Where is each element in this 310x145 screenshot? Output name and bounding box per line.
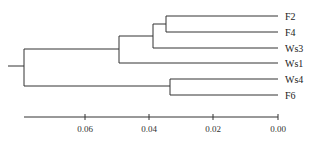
- leaf-label-ws3: Ws3: [285, 43, 303, 54]
- tick-label-0.04: 0.04: [141, 124, 157, 134]
- dendrogram: F2 F4 Ws3 Ws1 Ws4 F6 0.06 0.04 0.02 0.00: [0, 0, 310, 145]
- leaf-label-ws1: Ws1: [285, 58, 303, 69]
- leaf-label-f2: F2: [285, 11, 296, 22]
- leaf-label-f4: F4: [285, 27, 296, 38]
- tick-label-0.02: 0.02: [205, 124, 221, 134]
- tick-label-0.06: 0.06: [77, 124, 93, 134]
- tick-label-0.00: 0.00: [270, 124, 286, 134]
- leaf-label-f6: F6: [285, 90, 296, 101]
- leaf-label-ws4: Ws4: [285, 74, 303, 85]
